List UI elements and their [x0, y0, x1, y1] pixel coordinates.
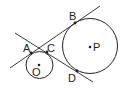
- label-p: P: [93, 41, 100, 53]
- label-b: B: [69, 10, 76, 22]
- label-d: D: [68, 72, 76, 84]
- geometry-diagram: A C B D O P: [0, 0, 124, 88]
- center-p: [89, 46, 92, 49]
- point-d: [76, 70, 79, 73]
- label-o: O: [32, 66, 41, 78]
- label-c: C: [47, 42, 55, 54]
- tangent-line-ab: [10, 6, 100, 68]
- point-b: [74, 22, 77, 25]
- label-a: A: [23, 42, 31, 54]
- tangent-line-cd: [15, 33, 93, 82]
